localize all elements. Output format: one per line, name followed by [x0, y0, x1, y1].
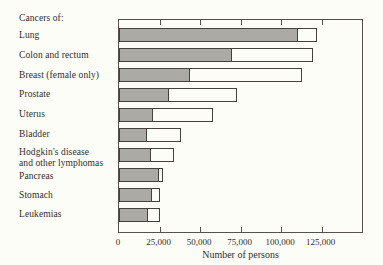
x-axis-tick-125-000-top — [322, 20, 323, 25]
bar-pancreas — [119, 168, 163, 182]
bar-lung — [119, 28, 317, 42]
bar-prostate — [119, 88, 237, 102]
bar-colon-and-rectum — [119, 48, 313, 62]
cancer-incidence-bar-chart: Cancers of: LungColon and rectumBreast (… — [0, 0, 383, 265]
bar-lung-shaded-segment — [120, 29, 298, 41]
x-axis-tick-75-000-bottom — [241, 227, 242, 232]
plot-area — [118, 19, 363, 233]
x-axis-tick-75-000-top — [241, 20, 242, 25]
bar-bladder — [119, 128, 181, 142]
bar-bladder-shaded-segment — [120, 129, 147, 141]
bar-leukemias — [119, 208, 160, 222]
x-axis-title: Number of persons — [118, 249, 363, 260]
category-label-bladder: Bladder — [19, 129, 50, 140]
x-axis-tick-50-000-top — [200, 20, 201, 25]
x-axis-tick-25-000-top — [160, 20, 161, 25]
bar-leukemias-shaded-segment — [120, 209, 148, 221]
x-axis-tick-label-100-000: 100,000 — [265, 237, 294, 247]
bar-prostate-shaded-segment — [120, 89, 169, 101]
bar-breast-female-only — [119, 68, 302, 82]
category-label-leukemias: Leukemias — [19, 209, 62, 220]
bar-stomach — [119, 188, 160, 202]
x-axis-tick-25-000-bottom — [160, 227, 161, 232]
x-axis-tick-label-25-000: 25,000 — [146, 237, 171, 247]
category-label-prostate: Prostate — [19, 89, 50, 100]
category-label-colon-and-rectum: Colon and rectum — [19, 50, 89, 61]
x-axis-tick-50-000-bottom — [200, 227, 201, 232]
category-label-lung: Lung — [19, 30, 39, 41]
category-label-stomach: Stomach — [19, 190, 53, 201]
x-axis-tick-label-50-000: 50,000 — [187, 237, 212, 247]
bar-pancreas-shaded-segment — [120, 169, 159, 181]
x-axis-tick-label-0: 0 — [116, 237, 121, 247]
category-label-hodgkin-s-disease-and-other-lymphomas: Hodgkin's diseaseand other lymphomas — [19, 147, 103, 168]
chart-title: Cancers of: — [19, 13, 64, 24]
bar-uterus-shaded-segment — [120, 109, 153, 121]
bar-stomach-shaded-segment — [120, 189, 152, 201]
bar-uterus — [119, 108, 213, 122]
category-label-uterus: Uterus — [19, 109, 45, 120]
x-axis-tick-100-000-top — [281, 20, 282, 25]
category-label-pancreas: Pancreas — [19, 171, 54, 182]
x-axis-tick-100-000-bottom — [281, 227, 282, 232]
bar-hodgkin-s-disease-and-other-lymphomas-shaded-segment — [120, 149, 151, 161]
bar-breast-female-only-shaded-segment — [120, 69, 190, 81]
bar-colon-and-rectum-shaded-segment — [120, 49, 232, 61]
bar-hodgkin-s-disease-and-other-lymphomas — [119, 148, 174, 162]
x-axis-tick-125-000-bottom — [322, 227, 323, 232]
category-label-breast-female-only: Breast (female only) — [19, 70, 99, 81]
x-axis-tick-label-125-000: 125,000 — [306, 237, 335, 247]
x-axis-tick-label-75-000: 75,000 — [227, 237, 252, 247]
